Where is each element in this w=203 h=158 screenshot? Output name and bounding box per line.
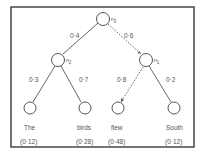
leaf-prob-flew: (0·48): [108, 138, 125, 146]
leaf-node-south: [168, 102, 180, 114]
node-right: [140, 54, 153, 67]
leaf-prob-birds: (0·28): [76, 138, 93, 146]
probability-tree-diagram: n3 n2 n1 0·4 0·6 0·3 0·7 0·8 0·2 The bir…: [0, 0, 203, 158]
leaf-word-south: South: [166, 124, 183, 131]
leaf-node-birds: [79, 102, 91, 114]
node-root: [97, 13, 110, 26]
leaf-word-birds: birds: [77, 124, 92, 131]
edge-weight-left-birds: 0·7: [79, 76, 89, 83]
leaf-word-flew: flew: [111, 124, 123, 131]
node-left: [52, 54, 65, 67]
leaf-node-flew: [112, 102, 124, 114]
leaf-node-the: [24, 102, 36, 114]
leaf-prob-south: (0·12): [165, 138, 182, 146]
edge-weight-root-right: 0·6: [124, 32, 134, 39]
edge-weight-left-the: 0·3: [29, 76, 39, 83]
edge-weight-right-south: 0·2: [166, 76, 176, 83]
leaf-word-the: The: [24, 124, 36, 131]
leaf-prob-the: (0·12): [20, 138, 37, 146]
edge-weight-root-left: 0·4: [70, 32, 80, 39]
edge-weight-right-flew: 0·8: [117, 76, 127, 83]
